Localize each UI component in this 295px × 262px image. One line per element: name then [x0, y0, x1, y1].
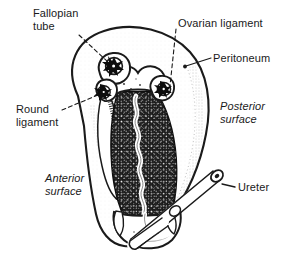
label-anterior-surface: Anterior surface	[45, 172, 84, 198]
leader-peritoneum-dot	[183, 65, 187, 69]
label-fallopian-tube: Fallopian tube	[33, 7, 79, 33]
label-peritoneum: Peritoneum	[213, 52, 270, 65]
diagram-canvas	[0, 0, 295, 262]
label-posterior-surface: Posterior surface	[220, 100, 265, 126]
leader-ureter	[222, 184, 235, 187]
label-round-ligament: Round ligament	[16, 103, 58, 129]
label-ureter: Ureter	[238, 181, 269, 194]
anatomical-figure: Fallopian tube Ovarian ligament Peritone…	[0, 0, 295, 262]
label-ovarian-ligament: Ovarian ligament	[178, 17, 263, 30]
